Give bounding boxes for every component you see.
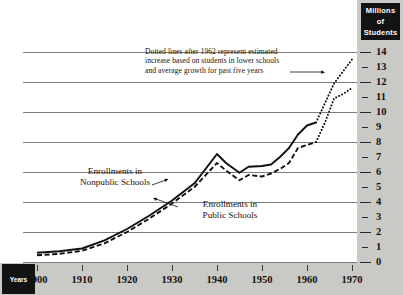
x-tick-label: 1900 — [15, 274, 59, 285]
y-axis-tick: 2 — [357, 226, 401, 238]
y-axis-tick: 1 — [357, 241, 401, 253]
nonpublic-label-line-1: Enrollments in — [60, 166, 170, 177]
public-label-arrowhead — [153, 198, 157, 201]
series-estimate-nonpublic — [316, 60, 352, 123]
y-tick-mark — [362, 97, 368, 98]
y-axis-tick: 3 — [357, 211, 401, 223]
x-tick-mark — [37, 265, 38, 271]
estimate-note-line-2: increase based on students in lower scho… — [145, 56, 321, 65]
y-tick-mark — [362, 187, 368, 188]
y-tick-mark — [360, 172, 371, 173]
y-axis-tick: 13 — [357, 61, 401, 73]
y-axis-tick: 5 — [357, 181, 401, 193]
y-tick-mark — [362, 157, 368, 158]
y-tick-label: 4 — [376, 196, 398, 207]
estimate-note-arrowhead — [321, 70, 325, 73]
y-tick-label: 5 — [376, 181, 398, 192]
y-tick-label: 1 — [376, 241, 398, 252]
x-tick-label: 1970 — [330, 274, 374, 285]
y-tick-label: 10 — [376, 106, 398, 117]
x-tick-label: 1910 — [60, 274, 104, 285]
x-tick-mark — [262, 265, 263, 271]
y-tick-mark — [360, 82, 371, 83]
y-axis-tick: 12 — [357, 76, 401, 88]
estimate-note: Dotted lines after 1962 represent estima… — [145, 47, 321, 75]
y-tick-mark — [360, 52, 371, 53]
estimate-note-line-3: and average growth for past five years — [145, 66, 321, 75]
x-tick-mark — [352, 265, 353, 271]
x-tick-label: 1920 — [105, 274, 149, 285]
y-tick-mark — [362, 127, 368, 128]
y-tick-mark — [360, 232, 371, 233]
y-tick-label: 0 — [376, 256, 398, 267]
y-axis-tick: 7 — [357, 151, 401, 163]
y-tick-label: 7 — [376, 151, 398, 162]
y-axis-tick: 4 — [357, 196, 401, 208]
y-axis-tick: 8 — [357, 136, 401, 148]
x-tick-mark — [217, 265, 218, 271]
y-axis-tick: 11 — [357, 91, 401, 103]
plot-area — [0, 0, 403, 295]
series-estimate-public — [316, 88, 352, 142]
x-tick-mark — [127, 265, 128, 271]
y-tick-mark — [360, 202, 371, 203]
y-axis-tick: 9 — [357, 121, 401, 133]
y-tick-mark — [362, 217, 368, 218]
public-label-line-1: Enrollments in — [180, 199, 280, 210]
series-lines — [0, 0, 403, 295]
y-tick-label: 3 — [376, 211, 398, 222]
y-tick-mark — [362, 247, 368, 248]
y-tick-label: 6 — [376, 166, 398, 177]
x-tick-mark — [172, 265, 173, 271]
y-tick-label: 14 — [376, 46, 398, 57]
y-axis-tick: 0 — [357, 256, 401, 268]
x-tick-mark — [82, 265, 83, 271]
x-tick-label: 1940 — [195, 274, 239, 285]
y-axis-tick: 10 — [357, 106, 401, 118]
y-tick-label: 13 — [376, 61, 398, 72]
x-tick-label: 1950 — [240, 274, 284, 285]
y-tick-label: 8 — [376, 136, 398, 147]
chart-figure: Millions of Students Years Dotted lines … — [0, 0, 403, 295]
public-series-label: Enrollments in Public Schools — [180, 199, 280, 221]
y-tick-mark — [360, 112, 371, 113]
x-tick-label: 1930 — [150, 274, 194, 285]
public-label-leader — [156, 199, 178, 207]
y-tick-label: 2 — [376, 226, 398, 237]
y-tick-label: 9 — [376, 121, 398, 132]
y-axis-tick: 6 — [357, 166, 401, 178]
y-tick-label: 12 — [376, 76, 398, 87]
y-axis-tick: 14 — [357, 46, 401, 58]
y-tick-mark — [360, 262, 371, 263]
public-label-line-2: Public Schools — [180, 210, 280, 221]
y-tick-mark — [362, 67, 368, 68]
y-tick-label: 11 — [376, 91, 398, 102]
x-tick-label: 1960 — [285, 274, 329, 285]
nonpublic-label-line-2: Nonpublic Schools — [60, 177, 170, 188]
estimate-note-line-1: Dotted lines after 1962 represent estima… — [145, 47, 321, 56]
x-tick-mark — [307, 265, 308, 271]
y-tick-mark — [360, 142, 371, 143]
nonpublic-series-label: Enrollments in Nonpublic Schools — [60, 166, 170, 188]
